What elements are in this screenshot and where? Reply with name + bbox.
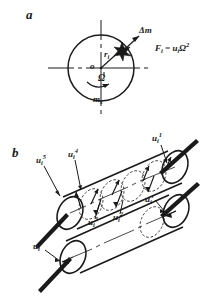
angular-velocity-label: Ω	[98, 74, 105, 84]
rotor-mass-label: ms	[93, 95, 103, 106]
point-mass-label: Δm	[139, 26, 152, 35]
lower-rotor-leader-heads	[55, 209, 165, 262]
disc-centre-label: o	[90, 62, 95, 71]
panel-a-letter: a	[26, 8, 33, 21]
disc-centre-point	[100, 67, 103, 70]
unbalance-force-formula: Fi = uiΩ2	[155, 42, 189, 55]
equivalent-unbalance-label-left: uil	[33, 240, 42, 253]
upper-cylinder-top-edge	[63, 151, 168, 197]
unbalance-vector-arrows	[76, 157, 171, 215]
radius-label: ri	[104, 50, 109, 61]
unbalance-vector-label-1: ui1	[152, 132, 162, 145]
delta-m-leader-arrow	[125, 36, 139, 49]
unbalance-vector-label-2: ui2	[113, 211, 123, 224]
unbalance-vector-label-5: ui5	[36, 154, 46, 167]
upper-rotor-axis	[70, 167, 175, 213]
lower-shaft-right	[160, 182, 200, 218]
lower-cylinder-bottom-edge	[80, 227, 183, 273]
unbalance-vector-label-4: ui4	[68, 148, 78, 161]
unbalance-point-mass	[114, 42, 131, 61]
equivalent-unbalance-label-right: uir	[145, 193, 154, 206]
unbalance-vector-label-3: ui3	[88, 216, 98, 229]
upper-rotor-group	[35, 139, 199, 249]
upper-rotor-label-leaders	[44, 145, 167, 219]
panel-b-letter: b	[12, 146, 19, 159]
